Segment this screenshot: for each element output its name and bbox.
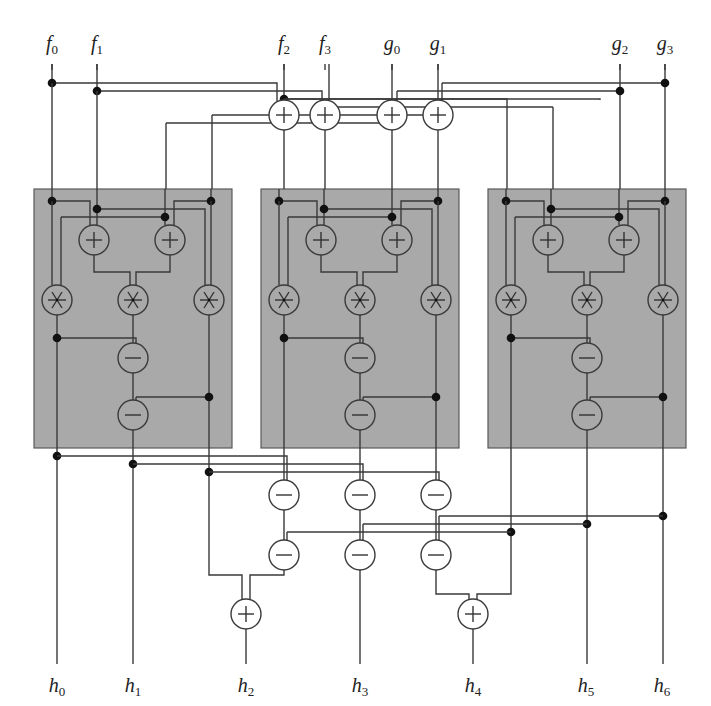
block-multiplier [118, 285, 148, 315]
label-base: h [465, 674, 475, 696]
label-subscript: 0 [52, 42, 59, 57]
combine-subtractor-a1 [345, 480, 375, 510]
block-adder [79, 225, 109, 255]
junction-node [507, 334, 516, 343]
junction-node [280, 334, 289, 343]
input-label-f0: f0 [46, 32, 58, 58]
label-base: g [430, 32, 440, 54]
block-multiplier [421, 285, 451, 315]
input-label-f1: f1 [91, 32, 103, 58]
junction-node [205, 393, 214, 402]
block-adder [155, 225, 185, 255]
output-label-h5: h5 [578, 674, 595, 700]
label-subscript: 1 [97, 42, 104, 57]
block-adder [609, 225, 639, 255]
combine-subtractor-a0 [269, 480, 299, 510]
block-subtractor [572, 400, 602, 430]
label-subscript: 2 [622, 42, 629, 57]
label-subscript: 6 [664, 684, 671, 699]
label-subscript: 0 [394, 42, 401, 57]
block-subtractor [345, 343, 375, 373]
input-label-f2: f2 [278, 32, 290, 58]
final-adder-h4 [458, 599, 488, 629]
input-label-g0: g0 [384, 32, 401, 58]
label-subscript: 4 [475, 684, 482, 699]
label-subscript: 1 [440, 42, 447, 57]
top-adder-0 [269, 100, 299, 130]
junction-node [547, 205, 556, 214]
block-subtractor [345, 400, 375, 430]
junction-node [616, 87, 625, 96]
final-adder-h2 [231, 599, 261, 629]
combine-subtractor-b2 [421, 540, 451, 570]
output-label-h0: h0 [49, 674, 66, 700]
block-multiplier [572, 285, 602, 315]
block-multiplier [42, 285, 72, 315]
junction-node [659, 393, 668, 402]
top-adder-2 [377, 100, 407, 130]
block-multiplier [269, 285, 299, 315]
block-adder [533, 225, 563, 255]
wire [436, 570, 469, 599]
label-base: h [654, 674, 664, 696]
block-subtractor [118, 343, 148, 373]
output-label-h4: h4 [465, 674, 482, 700]
label-base: h [125, 674, 135, 696]
block-multiplier [194, 285, 224, 315]
output-label-h2: h2 [238, 674, 255, 700]
junction-node [161, 213, 170, 222]
label-base: h [49, 674, 59, 696]
junction-node [432, 393, 441, 402]
input-label-g2: g2 [612, 32, 629, 58]
junction-node [615, 213, 624, 222]
label-subscript: 1 [135, 684, 142, 699]
output-label-h3: h3 [352, 674, 369, 700]
block-subtractor [118, 400, 148, 430]
block-multiplier [345, 285, 375, 315]
combine-subtractor-b0 [269, 540, 299, 570]
output-label-h6: h6 [654, 674, 671, 700]
input-label-f3: f3 [319, 32, 331, 58]
junction-node [53, 334, 62, 343]
label-base: g [657, 32, 667, 54]
block-multiplier [648, 285, 678, 315]
wire [57, 456, 287, 480]
label-subscript: 3 [325, 42, 332, 57]
label-base: g [384, 32, 394, 54]
combine-subtractor-b1 [345, 540, 375, 570]
label-base: h [352, 674, 362, 696]
label-base: h [238, 674, 248, 696]
input-label-g3: g3 [657, 32, 674, 58]
label-subscript: 5 [588, 684, 595, 699]
block-multiplier [496, 285, 526, 315]
output-label-h1: h1 [125, 674, 142, 700]
input-label-g1: g1 [430, 32, 447, 58]
label-subscript: 3 [362, 684, 369, 699]
junction-node [661, 79, 670, 88]
wire [250, 570, 284, 599]
block-subtractor [572, 343, 602, 373]
label-subscript: 0 [59, 684, 66, 699]
combine-subtractor-a2 [421, 480, 451, 510]
label-base: g [612, 32, 622, 54]
junction-node [320, 205, 329, 214]
wire [209, 472, 439, 480]
block-adder [382, 225, 412, 255]
label-subscript: 2 [248, 684, 255, 699]
junction-node [93, 205, 102, 214]
label-base: h [578, 674, 588, 696]
label-subscript: 2 [284, 42, 291, 57]
label-subscript: 3 [667, 42, 674, 57]
top-adder-1 [310, 100, 340, 130]
wire [52, 64, 277, 101]
circuit-diagram [0, 0, 711, 706]
block-adder [306, 225, 336, 255]
junction-node [388, 213, 397, 222]
top-adder-3 [423, 100, 453, 130]
wire [209, 448, 242, 599]
